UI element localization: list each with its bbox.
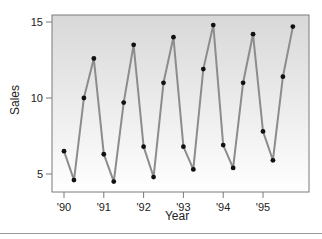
x-axis-title: Year (165, 209, 189, 223)
data-point-marker (72, 178, 77, 183)
data-point-marker (271, 158, 276, 163)
data-point-marker (141, 144, 146, 149)
data-point-marker (91, 56, 96, 61)
data-point-marker (181, 144, 186, 149)
data-point-marker (281, 74, 286, 79)
sales-line-chart: 51015 '90'91'92'93'94'95 Year Sales (0, 0, 322, 239)
data-point-marker (211, 23, 216, 28)
x-tick-label: '95 (256, 201, 270, 213)
data-point-marker (290, 24, 295, 29)
x-axis: '90'91'92'93'94'95 (57, 192, 270, 213)
data-point-marker (151, 175, 156, 180)
x-tick-label: '94 (216, 201, 230, 213)
data-point-marker (62, 149, 67, 154)
y-axis-title: Sales (8, 85, 22, 115)
y-tick-label: 5 (37, 168, 43, 180)
data-point-marker (261, 129, 266, 134)
plot-area (52, 15, 309, 192)
data-point-marker (231, 166, 236, 171)
data-point-marker (171, 35, 176, 40)
y-tick-label: 10 (31, 92, 43, 104)
x-tick-label: '90 (57, 201, 71, 213)
data-point-marker (241, 80, 246, 85)
bottom-divider (0, 233, 322, 234)
data-point-marker (221, 143, 226, 148)
y-tick-label: 15 (31, 16, 43, 28)
data-point-marker (82, 96, 87, 101)
x-tick-label: '91 (97, 201, 111, 213)
data-point-marker (131, 42, 136, 47)
data-point-marker (201, 67, 206, 72)
data-point-marker (101, 152, 106, 157)
data-point-marker (121, 100, 126, 105)
x-tick-label: '92 (136, 201, 150, 213)
data-point-marker (161, 80, 166, 85)
y-axis: 51015 (31, 16, 52, 180)
data-point-marker (191, 167, 196, 172)
data-point-marker (251, 32, 256, 37)
data-point-marker (111, 179, 116, 184)
